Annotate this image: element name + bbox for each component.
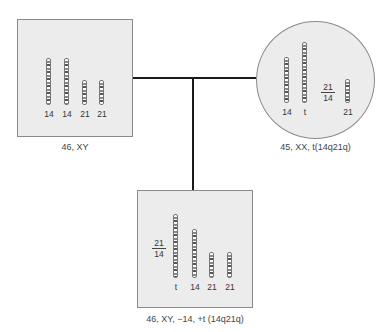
fraction-bottom: 14 <box>154 249 163 259</box>
chromosome-label: 14 <box>42 109 56 119</box>
descent-line <box>192 77 194 190</box>
fraction-top: 21 <box>152 238 166 249</box>
chromosome-label: 21 <box>95 109 109 119</box>
chromosome-21 <box>345 79 350 103</box>
mating-line <box>133 77 256 79</box>
chromosome-21 <box>209 252 214 278</box>
chromosome-translocation <box>302 42 307 103</box>
fraction-bottom: 14 <box>323 93 332 103</box>
chromosome-21 <box>99 80 104 105</box>
translocation-fraction: 21 14 <box>321 82 335 103</box>
chromosome-14 <box>46 58 51 105</box>
translocation-fraction: 21 14 <box>152 238 166 259</box>
chromosome-label: t <box>298 107 312 117</box>
chromosome-label: t <box>169 282 183 292</box>
chromosome-label: 21 <box>223 282 237 292</box>
fraction-top: 21 <box>321 82 335 93</box>
child-square: 21 14 t 14 21 21 <box>137 190 253 308</box>
child-karyotype-caption: 46, XY, −14, +t (14q21q) <box>127 314 263 324</box>
mother-karyotype-caption: 45, XX, t(14q21q) <box>256 142 375 152</box>
chromosome-label: 14 <box>188 282 202 292</box>
chromosome-label: 21 <box>78 109 92 119</box>
chromosome-label: 21 <box>341 107 355 117</box>
chromosome-21 <box>227 252 232 278</box>
chromosome-21 <box>82 80 87 105</box>
chromosome-translocation <box>173 214 178 278</box>
father-square: 14 14 21 21 <box>17 19 133 137</box>
chromosome-label: 14 <box>60 109 74 119</box>
mother-circle: 21 14 14 t 21 <box>256 21 375 139</box>
chromosome-14 <box>64 58 69 105</box>
chromosome-label: 14 <box>280 107 294 117</box>
chromosome-label: 21 <box>205 282 219 292</box>
father-karyotype-caption: 46, XY <box>17 142 133 152</box>
chromosome-14 <box>192 229 197 278</box>
chromosome-14 <box>284 57 289 103</box>
